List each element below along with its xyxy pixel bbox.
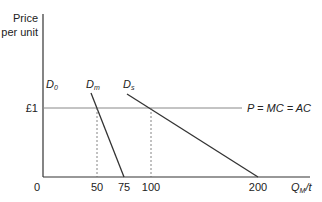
x-tick-75: 75 bbox=[118, 181, 130, 193]
y-axis-label-line1: Price bbox=[13, 12, 38, 24]
x-axis-label: QM/t bbox=[291, 181, 312, 194]
ds-demand-line bbox=[127, 94, 258, 177]
x-tick-50: 50 bbox=[91, 181, 103, 193]
price-line-label: P = MC = AC bbox=[247, 102, 311, 114]
chart: Price per unit P = MC = AC £1 D0 Dm Ds 0… bbox=[0, 0, 322, 202]
price-tick-label: £1 bbox=[26, 102, 38, 114]
dm-demand-line bbox=[91, 93, 124, 177]
ds-label: Ds bbox=[123, 78, 135, 91]
d0-label: D0 bbox=[46, 78, 58, 91]
x-tick-100: 100 bbox=[142, 181, 160, 193]
x-tick-200: 200 bbox=[249, 181, 267, 193]
y-axis-label-line2: per unit bbox=[1, 26, 38, 38]
origin-label: 0 bbox=[34, 181, 40, 193]
dm-label: Dm bbox=[86, 78, 100, 91]
